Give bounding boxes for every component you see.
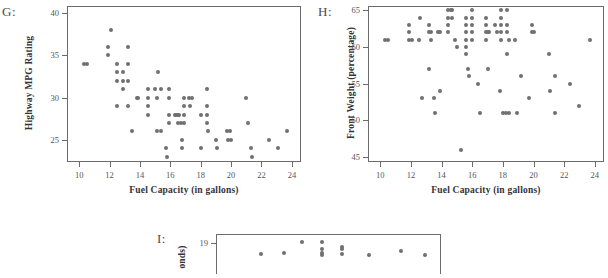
scatter-point <box>182 96 186 100</box>
scatter-point <box>532 30 536 34</box>
scatter-point <box>367 253 371 257</box>
scatter-point <box>155 129 159 133</box>
scatter-point <box>498 89 502 93</box>
scatter-point <box>505 8 509 12</box>
scatter-point <box>159 87 163 91</box>
scatter-point <box>407 23 411 27</box>
scatter-point <box>410 38 414 42</box>
scatter-point <box>182 113 186 117</box>
y-axis-title-i: onds) <box>177 227 187 278</box>
scatter-point <box>499 30 503 34</box>
scatter-point <box>478 111 482 115</box>
x-tick-label: 10 <box>75 170 84 180</box>
y-tick-mark <box>363 10 368 11</box>
scatter-point <box>115 79 119 83</box>
scatter-point <box>167 113 171 117</box>
scatter-point <box>206 129 210 133</box>
scatter-point <box>470 23 474 27</box>
scatter-point <box>499 16 503 20</box>
scatter-point <box>499 23 503 27</box>
scatter-point <box>553 111 557 115</box>
scatter-point <box>229 138 233 142</box>
scatter-point <box>228 129 232 133</box>
y-tick-label: 30 <box>33 93 59 103</box>
x-tick-mark <box>534 162 535 167</box>
plot-area-i <box>216 234 441 274</box>
scatter-point <box>423 253 427 257</box>
scatter-point <box>588 38 592 42</box>
scatter-point <box>285 129 289 133</box>
scatter-point <box>249 146 253 150</box>
x-tick-label: 10 <box>376 170 385 180</box>
scatter-point <box>433 111 437 115</box>
scatter-point <box>386 38 390 42</box>
x-tick-label: 14 <box>136 170 145 180</box>
x-tick-label: 24 <box>288 170 297 180</box>
y-tick-mark <box>211 243 216 244</box>
scatter-point <box>464 23 468 27</box>
scatter-point <box>250 155 254 159</box>
scatter-point <box>464 16 468 20</box>
x-tick-label: 18 <box>499 170 508 180</box>
y-tick-mark <box>62 140 67 141</box>
scatter-point <box>282 251 286 255</box>
scatter-point <box>459 148 463 152</box>
scatter-point <box>115 104 119 108</box>
scatter-point <box>267 138 271 142</box>
scatter-point <box>167 96 171 100</box>
scatter-point <box>438 30 442 34</box>
x-tick-label: 14 <box>437 170 446 180</box>
y-axis-title-g: Highway MPG Rating <box>24 28 34 138</box>
scatter-point <box>146 87 150 91</box>
scatter-point <box>340 252 344 256</box>
scatter-point <box>432 96 436 100</box>
scatter-point <box>126 45 130 49</box>
scatter-point <box>505 30 509 34</box>
scatter-point <box>146 113 150 117</box>
scatter-point <box>464 45 468 49</box>
scatter-point <box>167 121 171 125</box>
y-tick-mark <box>62 13 67 14</box>
scatter-point <box>548 89 552 93</box>
scatter-point <box>276 146 280 150</box>
y-tick-label: 25 <box>33 135 59 145</box>
scatter-point <box>244 96 248 100</box>
scatter-point <box>177 113 181 117</box>
scatter-point <box>486 67 490 71</box>
x-tick-label: 12 <box>105 170 114 180</box>
scatter-point <box>106 53 110 57</box>
scatter-point <box>530 23 534 27</box>
x-tick-label: 20 <box>227 170 236 180</box>
scatter-point <box>399 249 403 253</box>
x-axis-title-g: Fuel Capacity (in gallons) <box>67 185 301 195</box>
x-tick-mark <box>472 162 473 167</box>
panel-letter-h: H: <box>318 4 332 20</box>
x-tick-mark <box>503 162 504 167</box>
scatter-point <box>126 62 130 66</box>
x-tick-mark <box>564 162 565 167</box>
scatter-point <box>109 28 113 32</box>
scatter-point <box>507 38 511 42</box>
scatter-point <box>476 82 480 86</box>
scatter-point <box>153 87 157 91</box>
scatter-point <box>199 146 203 150</box>
scatter-point <box>515 111 519 115</box>
y-tick-label: 35 <box>33 50 59 60</box>
scatter-point <box>190 96 194 100</box>
scatter-point <box>188 104 192 108</box>
scatter-point <box>484 38 488 42</box>
scatter-point <box>300 240 304 244</box>
scatter-point <box>493 23 497 27</box>
x-tick-mark <box>110 162 111 167</box>
scatter-point <box>513 38 517 42</box>
scatter-point <box>470 16 474 20</box>
scatter-point <box>429 38 433 42</box>
scatter-point <box>121 70 125 74</box>
scatter-point <box>156 70 160 74</box>
scatter-point <box>499 38 503 42</box>
scatter-point <box>420 96 424 100</box>
panel-letter-i: I: <box>157 231 166 247</box>
y-tick-label: 19 <box>182 238 208 248</box>
scatter-point <box>418 16 422 20</box>
scatter-point <box>159 129 163 133</box>
